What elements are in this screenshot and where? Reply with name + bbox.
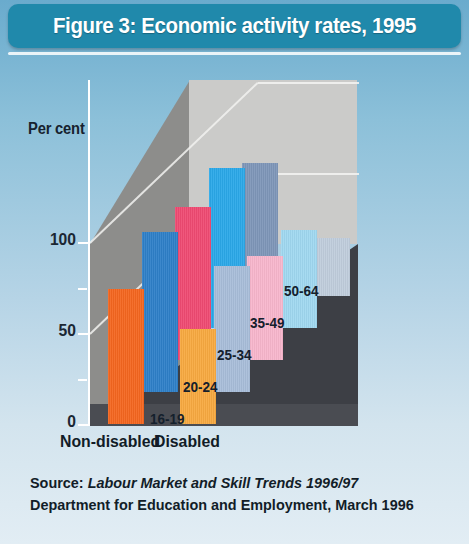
bar-disabled-50-64 xyxy=(314,238,350,296)
bar-disabled-16-19 xyxy=(180,329,216,424)
source-prefix: Source: xyxy=(30,474,88,491)
bar-disabled-20-24 xyxy=(214,266,250,392)
y-tick-label-0: 0 xyxy=(12,412,76,432)
series-label-non-disabled: Non-disabled xyxy=(60,432,160,452)
figure-title-bar: Figure 3: Economic activity rates, 1995 xyxy=(8,4,461,48)
bar-non-disabled-20-24 xyxy=(142,232,178,392)
source-publication: Labour Market and Skill Trends 1996/97 xyxy=(88,474,359,491)
source-line-2: Department for Education and Employment,… xyxy=(30,494,421,516)
y-tick-75 xyxy=(78,288,87,290)
series-label-disabled: Disabled xyxy=(154,432,220,452)
source-note: Source: Labour Market and Skill Trends 1… xyxy=(30,472,421,516)
y-axis-title: Per cent xyxy=(28,120,85,138)
depth-label-20-24: 20-24 xyxy=(183,378,218,395)
y-tick-0 xyxy=(78,424,90,426)
depth-label-50-64: 50-64 xyxy=(284,282,319,299)
depth-label-25-34: 25-34 xyxy=(217,346,252,363)
depth-label-35-49: 35-49 xyxy=(250,314,285,331)
bar-non-disabled-16-19 xyxy=(108,289,144,424)
bar-disabled-35-49 xyxy=(281,230,317,328)
chart-canvas: 050100 Per cent 16-1920-2425-3435-4950-6… xyxy=(0,58,469,458)
bar-face xyxy=(108,289,144,424)
bar-face xyxy=(214,266,250,392)
gridline-100 xyxy=(258,82,360,84)
depth-label-16-19: 16-19 xyxy=(150,410,185,427)
bar-face xyxy=(247,256,283,360)
bar-face xyxy=(314,238,350,296)
y-tick-label-50: 50 xyxy=(12,321,76,341)
bar-disabled-25-34 xyxy=(247,256,283,360)
bar-face xyxy=(281,230,317,328)
bar-face xyxy=(180,329,216,424)
source-line-1: Source: Labour Market and Skill Trends 1… xyxy=(30,472,421,494)
bar-face xyxy=(142,232,178,392)
y-tick-25 xyxy=(78,379,87,381)
title-divider xyxy=(8,52,461,55)
page-title: Figure 3: Economic activity rates, 1995 xyxy=(24,4,445,48)
y-tick-50 xyxy=(78,333,90,335)
y-tick-label-100: 100 xyxy=(12,230,76,250)
y-axis-line xyxy=(88,80,90,426)
y-tick-100 xyxy=(78,242,90,244)
